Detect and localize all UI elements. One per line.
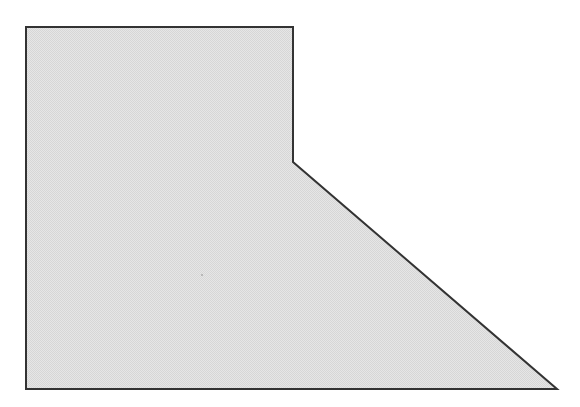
stepped-polygon-shape	[26, 27, 557, 389]
diagram-canvas	[0, 0, 580, 407]
stray-dot	[201, 274, 203, 276]
